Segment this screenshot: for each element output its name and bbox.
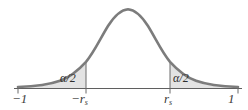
axis-label-negative-critical-value: −rs	[71, 92, 88, 107]
negative-critical-value-subscript: s	[85, 98, 88, 107]
distribution-plot	[0, 0, 248, 110]
right-tail-alpha-label: α/2	[173, 72, 189, 84]
axis-label-positive-critical-value: rs	[164, 92, 172, 107]
positive-critical-value-subscript: s	[169, 98, 172, 107]
axis-label-left-endpoint: −1	[12, 92, 27, 105]
bell-curve-figure: −1 1 −rs rs α/2 α/2	[0, 0, 248, 110]
left-tail-alpha-label: α/2	[60, 72, 76, 84]
normal-distribution-curve	[18, 9, 238, 87]
axis-label-right-endpoint: 1	[228, 92, 235, 105]
negative-critical-value-text: −r	[71, 91, 85, 106]
